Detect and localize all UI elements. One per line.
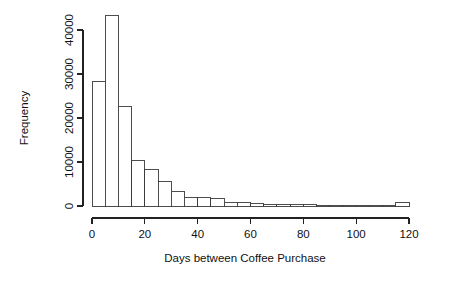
x-tick-label: 100	[347, 228, 366, 240]
y-tick-label: 20000	[63, 102, 75, 134]
histogram-bar	[303, 205, 316, 206]
histogram-bar	[317, 205, 330, 206]
histogram-bar	[264, 205, 277, 206]
histogram-bar	[92, 81, 105, 206]
y-tick-label: 30000	[63, 58, 75, 90]
histogram-bar	[158, 182, 171, 206]
histogram-bar	[184, 197, 197, 206]
bars-group	[92, 16, 409, 206]
y-axis-title: Frequency	[18, 91, 30, 146]
histogram-bar	[383, 205, 396, 206]
histogram-bar	[198, 198, 211, 206]
x-tick-group	[92, 218, 409, 224]
y-tick-label: 40000	[63, 14, 75, 46]
x-axis-title: Days between Coffee Purchase	[164, 252, 326, 264]
y-tick-group	[77, 30, 83, 206]
y-axis	[77, 30, 83, 206]
x-tick-label: 120	[399, 228, 418, 240]
histogram-bar	[343, 205, 356, 206]
histogram-plot: 010000200003000040000 020406080100120 Da…	[0, 0, 450, 288]
histogram-bar	[118, 106, 131, 206]
x-tick-labels: 020406080100120	[89, 228, 419, 240]
histogram-bar	[237, 203, 250, 206]
plot-canvas: 010000200003000040000 020406080100120 Da…	[0, 0, 450, 288]
x-axis	[92, 218, 409, 224]
histogram-bar	[145, 169, 158, 206]
histogram-bar	[396, 202, 409, 206]
histogram-bar	[224, 202, 237, 206]
histogram-bar	[330, 205, 343, 206]
x-tick-label: 0	[89, 228, 95, 240]
y-tick-label: 0	[63, 203, 75, 209]
histogram-bar	[171, 191, 184, 206]
histogram-bar	[356, 205, 369, 206]
x-tick-label: 60	[244, 228, 257, 240]
histogram-bar	[290, 205, 303, 206]
x-tick-label: 20	[138, 228, 151, 240]
histogram-bar	[277, 205, 290, 206]
x-tick-label: 40	[191, 228, 204, 240]
y-tick-labels: 010000200003000040000	[63, 14, 75, 209]
x-tick-label: 80	[297, 228, 310, 240]
histogram-bar	[211, 199, 224, 206]
histogram-bar	[132, 160, 145, 206]
y-tick-label: 10000	[63, 146, 75, 178]
histogram-bar	[251, 203, 264, 206]
histogram-bar	[105, 16, 118, 206]
histogram-bar	[369, 205, 382, 206]
